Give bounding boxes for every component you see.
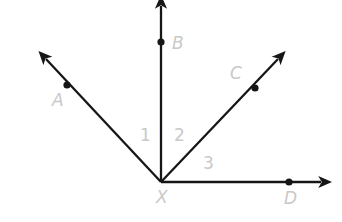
angle-label-1: 1 [140, 125, 151, 145]
ray-xa [46, 59, 161, 182]
point-b-dot [157, 38, 164, 45]
point-label-b: B [172, 33, 184, 53]
angle-label-2: 2 [174, 125, 185, 145]
vertex-label-x: X [155, 187, 168, 207]
point-label-c: C [230, 63, 242, 83]
angle-label-3: 3 [203, 153, 214, 173]
geometry-diagram-canvas: A B C D X 1 2 3 [0, 0, 342, 222]
ray-xc [161, 59, 278, 182]
point-a-dot [63, 81, 70, 88]
point-label-a: A [51, 90, 64, 110]
point-label-d: D [284, 188, 297, 208]
point-c-dot [251, 84, 258, 91]
point-d-dot [285, 178, 292, 185]
geometry-figure: A B C D X 1 2 3 [0, 0, 342, 222]
